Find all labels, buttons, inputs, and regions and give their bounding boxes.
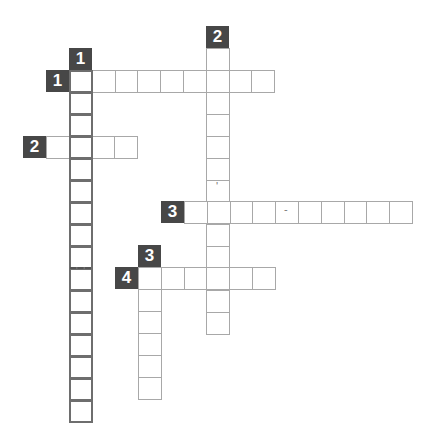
cell-3-across-5[interactable] [275, 201, 299, 224]
cell-1-down-10[interactable] [69, 268, 93, 291]
cell-4-across-3[interactable] [184, 267, 208, 290]
cell-3-across-2[interactable] [207, 201, 231, 224]
cell-2-down-2[interactable] [206, 70, 230, 93]
cell-1-down-6[interactable] [69, 180, 93, 203]
clue-number-1-across: 1 [46, 70, 69, 92]
cell-3-across-6[interactable] [298, 201, 322, 224]
cell-3-across-1[interactable] [184, 201, 208, 224]
cell-2-down-6[interactable] [206, 158, 230, 181]
cell-4-across-4[interactable] [206, 267, 230, 290]
cell-3-across-3[interactable] [230, 201, 254, 224]
cell-1-down-15[interactable] [69, 378, 93, 401]
cell-4-across-2[interactable] [161, 267, 185, 290]
cell-4-across-5[interactable] [229, 267, 253, 290]
cell-4-across-1[interactable] [138, 267, 162, 290]
cell-1-across-4[interactable] [137, 70, 161, 93]
cell-3-down-3[interactable] [138, 311, 162, 334]
cell-2-down-13[interactable] [206, 312, 230, 335]
cell-2-across-3[interactable] [92, 136, 116, 159]
clue-number-1-down: 1 [69, 48, 92, 70]
crossword-grid: 1223341'- [0, 0, 435, 441]
cell-2-across-4[interactable] [114, 136, 138, 159]
clue-number-2-across: 2 [23, 136, 46, 158]
cell-2-down-1[interactable] [206, 48, 230, 71]
cell-1-down-5[interactable] [69, 158, 93, 181]
cell-2-down-12[interactable] [206, 290, 230, 313]
cell-2-across-1[interactable] [46, 136, 70, 159]
cell-3-across-7[interactable] [321, 201, 345, 224]
cell-3-across-4[interactable] [252, 201, 276, 224]
cell-3-down-4[interactable] [138, 333, 162, 356]
cell-1-across-8[interactable] [229, 70, 253, 93]
clue-number-3-across: 3 [161, 201, 184, 223]
cell-2-down-5[interactable] [206, 136, 230, 159]
cell-1-down-16[interactable] [69, 400, 93, 423]
cell-3-across-8[interactable] [344, 201, 368, 224]
cell-1-down-11[interactable] [69, 290, 93, 313]
cell-3-down-5[interactable] [138, 355, 162, 378]
cell-1-down-14[interactable] [69, 356, 93, 379]
cell-1-across-6[interactable] [183, 70, 207, 93]
cell-1-down-3[interactable] [69, 114, 93, 137]
cell-3-across-10[interactable] [389, 201, 413, 224]
cell-1-down-13[interactable] [69, 334, 93, 357]
clue-number-3-down: 3 [138, 245, 161, 267]
cell-3-down-2[interactable] [138, 289, 162, 312]
cell-1-down-12[interactable] [69, 312, 93, 335]
cell-1-down-4[interactable] [69, 136, 93, 159]
clue-number-2-down: 2 [206, 26, 229, 48]
cell-2-down-3[interactable] [206, 92, 230, 115]
cell-2-down-9[interactable] [206, 224, 230, 247]
clue-number-4-across: 4 [115, 267, 138, 289]
cell-1-down-7[interactable] [69, 202, 93, 225]
cell-2-down-7[interactable] [206, 180, 230, 203]
cell-3-across-9[interactable] [366, 201, 390, 224]
cell-1-across-3[interactable] [115, 70, 139, 93]
cell-1-down-8[interactable] [69, 224, 93, 247]
cell-4-across-6[interactable] [252, 267, 276, 290]
cell-1-down-9[interactable] [69, 246, 93, 269]
cell-2-down-4[interactable] [206, 114, 230, 137]
cell-2-down-10[interactable] [206, 246, 230, 269]
cell-1-across-9[interactable] [251, 70, 275, 93]
cell-1-across-2[interactable] [92, 70, 116, 93]
cell-1-down-1[interactable] [69, 70, 93, 93]
cell-1-down-2[interactable] [69, 92, 93, 115]
cell-1-across-5[interactable] [160, 70, 184, 93]
cell-3-down-6[interactable] [138, 377, 162, 400]
